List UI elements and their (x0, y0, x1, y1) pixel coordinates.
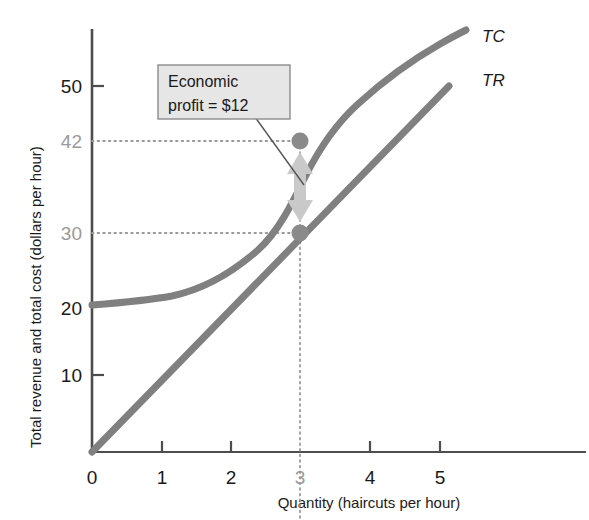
y-tick-label-30: 30 (61, 223, 82, 244)
y-tick-label-50: 50 (61, 76, 82, 97)
y-axis-title: Total revenue and total cost (dollars pe… (27, 146, 44, 448)
callout-line-1: Economic (168, 73, 238, 90)
tc-point-marker (292, 133, 309, 150)
x-tick-label-0: 0 (87, 467, 98, 488)
y-tick-label-20: 20 (61, 298, 82, 319)
economic-profit-callout: Economic profit = $12 (158, 65, 290, 119)
x-tick-label-4: 4 (365, 467, 376, 488)
x-tick-label-1: 1 (157, 467, 168, 488)
x-tick-label-2: 2 (226, 467, 237, 488)
tr-point-marker (292, 225, 309, 242)
x-tick-label-5: 5 (435, 467, 446, 488)
tc-curve-label: TC (482, 27, 505, 46)
tr-curve-label: TR (482, 71, 505, 90)
economic-profit-chart: 50 42 30 20 10 0 1 2 3 4 5 Total revenue… (0, 0, 589, 520)
callout-line-2: profit = $12 (168, 97, 249, 114)
y-tick-label-42: 42 (61, 131, 82, 152)
x-axis-title: Quantity (haircuts per hour) (278, 494, 461, 511)
y-tick-label-10: 10 (61, 365, 82, 386)
